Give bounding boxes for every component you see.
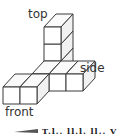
cube-front-face bbox=[49, 74, 66, 91]
cropped-footer-text: T.l.. ll.l. ll.. V bbox=[42, 126, 117, 135]
top-view-label: top bbox=[28, 8, 48, 20]
cube-front-face bbox=[20, 87, 37, 104]
cube-front-face bbox=[3, 87, 20, 104]
front-view-label: front bbox=[5, 106, 34, 118]
side-view-label: side bbox=[80, 62, 105, 74]
cube-front-face bbox=[44, 44, 61, 61]
cube-front-face bbox=[44, 27, 61, 44]
cube-front-face bbox=[66, 74, 83, 91]
